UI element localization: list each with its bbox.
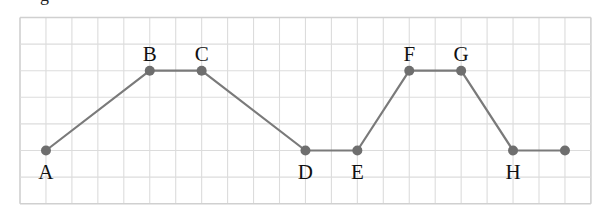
label-e: E <box>351 160 364 184</box>
label-d: D <box>298 160 313 184</box>
label-c: C <box>195 42 209 66</box>
figure: g ABCDEFGH <box>0 0 601 215</box>
point-f <box>404 66 414 76</box>
point-e <box>352 146 362 156</box>
label-h: H <box>505 160 520 184</box>
label-a: A <box>38 160 54 184</box>
label-f: F <box>403 42 415 66</box>
label-g: G <box>454 42 469 66</box>
point-a <box>41 146 51 156</box>
grid-path-diagram: ABCDEFGH <box>0 0 601 215</box>
point-h <box>508 146 518 156</box>
point-b <box>145 66 155 76</box>
point-end <box>560 146 570 156</box>
point-g <box>456 66 466 76</box>
point-d <box>300 146 310 156</box>
label-b: B <box>143 42 157 66</box>
caption-fragment: g <box>40 0 49 4</box>
point-c <box>197 66 207 76</box>
